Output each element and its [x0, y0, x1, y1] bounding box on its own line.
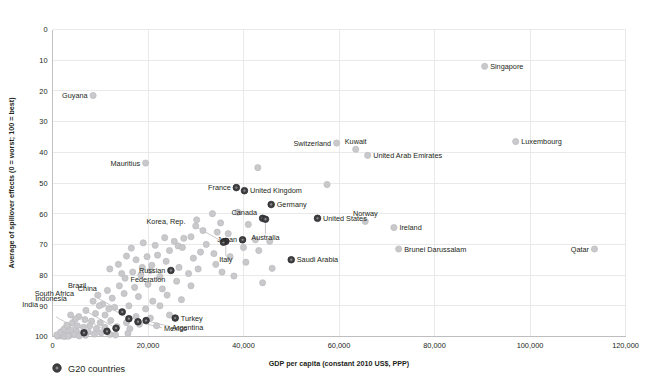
data-point — [159, 286, 165, 292]
data-point — [95, 292, 101, 298]
data-point — [102, 312, 108, 318]
point-label: United Kingdom — [250, 186, 302, 195]
data-point-core — [145, 319, 147, 321]
point-label: Australia — [251, 233, 280, 242]
data-point — [83, 307, 89, 313]
data-point — [214, 229, 220, 235]
point-label: Germany — [277, 200, 307, 209]
y-tick-label: 50 — [39, 179, 47, 188]
point-label: Kuwait — [345, 137, 367, 146]
point-label: Guyana — [62, 91, 88, 100]
scatter-chart: 0102030405060708090100 020,00040,00060,0… — [0, 0, 655, 387]
point-label: Turkey — [181, 314, 203, 323]
point-label: France — [208, 183, 231, 192]
y-tick-label: 20 — [39, 87, 47, 96]
point-label: Korea, Rep. — [146, 217, 185, 226]
y-tick-label: 40 — [39, 148, 47, 157]
grid-layer — [53, 30, 626, 337]
data-point — [150, 298, 156, 304]
x-tick-label: 100,000 — [517, 341, 544, 350]
data-point — [353, 146, 359, 152]
data-point — [178, 297, 184, 303]
data-point — [203, 241, 209, 247]
x-tick-label: 20,000 — [137, 341, 160, 350]
data-point — [482, 63, 488, 69]
data-point — [195, 266, 201, 272]
point-label: Saudi Arabia — [297, 255, 339, 264]
point-label: Canada — [232, 208, 259, 217]
point-label: Switzerland — [293, 139, 331, 148]
y-tick-label: 100 — [35, 332, 47, 341]
data-point — [181, 235, 187, 241]
data-point — [135, 293, 141, 299]
point-label: Ireland — [399, 223, 421, 232]
data-point — [90, 92, 96, 98]
data-point — [154, 252, 160, 258]
data-point — [92, 310, 98, 316]
y-tick-label: 70 — [39, 240, 47, 249]
y-tick-label: 10 — [39, 56, 47, 65]
data-point-core — [290, 259, 292, 261]
legend-label: G20 countries — [68, 364, 126, 374]
data-point — [260, 280, 266, 286]
x-tick-label: 40,000 — [232, 341, 255, 350]
point-label: Indonesia — [35, 294, 68, 303]
data-point — [231, 273, 237, 279]
point-label: Luxembourg — [521, 137, 562, 146]
data-point — [64, 322, 70, 328]
data-point — [513, 138, 519, 144]
x-tick-label: 0 — [50, 341, 54, 350]
y-tick-label: 30 — [39, 117, 47, 126]
data-point — [116, 283, 122, 289]
point-label: Mexico — [164, 324, 187, 333]
data-point — [91, 331, 97, 337]
data-point — [157, 303, 163, 309]
data-point — [166, 247, 172, 253]
data-point — [65, 333, 71, 339]
point-label: United States — [323, 214, 367, 223]
data-point — [125, 330, 131, 336]
data-point — [256, 247, 262, 253]
data-point — [152, 242, 158, 248]
x-tick-label: 120,000 — [612, 341, 639, 350]
data-point — [197, 249, 203, 255]
data-point — [115, 261, 121, 267]
data-point-core — [115, 327, 117, 329]
data-point — [108, 317, 114, 323]
y-tick-label: 60 — [39, 210, 47, 219]
data-point — [219, 269, 225, 275]
data-point-core — [270, 203, 272, 205]
data-point-core — [137, 321, 139, 323]
data-point — [153, 323, 159, 329]
data-point — [188, 234, 194, 240]
data-point — [106, 306, 112, 312]
x-tick-labels: 020,00040,00060,00080,000100,000120,000 — [50, 341, 638, 350]
data-point — [245, 221, 251, 227]
data-point — [324, 181, 330, 187]
point-label: Singapore — [490, 62, 523, 71]
data-point — [90, 298, 96, 304]
data-point — [591, 246, 597, 252]
data-point-core — [235, 186, 237, 188]
data-point — [128, 245, 134, 251]
data-point — [143, 160, 149, 166]
data-point — [185, 270, 191, 276]
point-label: Japan — [217, 235, 237, 244]
data-point — [126, 303, 132, 309]
y-tick-label: 80 — [39, 271, 47, 280]
chart-legend: G20 countries — [53, 364, 126, 374]
data-point — [200, 227, 206, 233]
data-point — [365, 152, 371, 158]
data-point — [122, 275, 128, 281]
data-point — [240, 244, 246, 250]
data-point — [211, 251, 217, 257]
data-point — [97, 320, 103, 326]
data-point — [133, 257, 139, 263]
x-tick-label: 60,000 — [328, 341, 351, 350]
data-point-core — [121, 311, 123, 313]
data-point — [213, 261, 219, 267]
data-point — [163, 258, 169, 264]
data-point — [140, 240, 146, 246]
data-point — [74, 323, 80, 329]
point-label: India — [22, 300, 39, 309]
